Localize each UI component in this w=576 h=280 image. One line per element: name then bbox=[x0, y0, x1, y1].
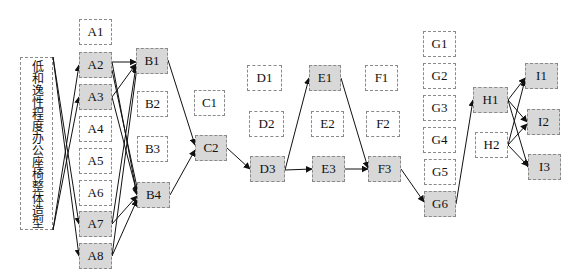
node-c1: C1 bbox=[194, 90, 225, 116]
diagram-canvas: 低和逸性程度办公座椅整体造型 A1A2A3A4A5A6A7A8B1B2B3B4C… bbox=[0, 0, 576, 280]
node-label: D1 bbox=[257, 70, 273, 86]
node-i1: I1 bbox=[525, 63, 558, 89]
node-e3: E3 bbox=[312, 156, 345, 182]
node-label: H2 bbox=[484, 137, 500, 153]
edge-arrow bbox=[53, 57, 79, 224]
node-label: A8 bbox=[88, 248, 104, 264]
node-a5: A5 bbox=[79, 148, 112, 174]
edge-arrow bbox=[285, 169, 312, 170]
edge-arrow bbox=[285, 78, 309, 170]
edge-arrow bbox=[53, 97, 79, 230]
node-label: G6 bbox=[432, 196, 448, 212]
node-label: A2 bbox=[88, 57, 104, 73]
node-label: F2 bbox=[376, 116, 390, 132]
node-label: A7 bbox=[88, 216, 104, 232]
node-e1: E1 bbox=[309, 65, 341, 91]
node-a8: A8 bbox=[79, 243, 112, 269]
node-label: F1 bbox=[375, 70, 389, 86]
node-e2: E2 bbox=[311, 111, 344, 137]
node-label: A4 bbox=[88, 121, 104, 137]
node-g3: G3 bbox=[423, 95, 456, 121]
node-label: D3 bbox=[260, 161, 276, 177]
node-label: G3 bbox=[432, 100, 448, 116]
node-label: G5 bbox=[432, 164, 448, 180]
node-h2: H2 bbox=[475, 132, 508, 158]
node-label: I2 bbox=[538, 114, 549, 130]
node-h1: H1 bbox=[473, 87, 508, 113]
node-d2: D2 bbox=[249, 111, 284, 137]
node-f2: F2 bbox=[366, 111, 400, 137]
edge-arrow bbox=[170, 150, 195, 195]
node-a3: A3 bbox=[79, 84, 112, 110]
node-label: B4 bbox=[146, 187, 161, 203]
node-a2: A2 bbox=[79, 52, 112, 78]
edge-arrow bbox=[401, 169, 424, 202]
edge-arrow bbox=[227, 148, 250, 169]
node-label: E3 bbox=[321, 161, 335, 177]
node-d3: D3 bbox=[250, 156, 285, 182]
node-a7: A7 bbox=[79, 211, 112, 237]
node-f3: F3 bbox=[368, 156, 401, 182]
node-b4: B4 bbox=[137, 182, 170, 208]
node-label: C1 bbox=[202, 95, 217, 111]
node-label: B2 bbox=[145, 96, 160, 112]
node-label: E2 bbox=[320, 116, 334, 132]
node-b1: B1 bbox=[136, 48, 168, 74]
node-label: G4 bbox=[432, 132, 448, 148]
node-a1: A1 bbox=[79, 19, 112, 45]
node-g4: G4 bbox=[423, 127, 456, 153]
node-label: G2 bbox=[432, 68, 448, 84]
node-g1: G1 bbox=[423, 31, 456, 57]
node-f1: F1 bbox=[365, 65, 398, 91]
node-label: B1 bbox=[144, 53, 159, 69]
node-c2: C2 bbox=[195, 135, 227, 161]
node-i2: I2 bbox=[527, 109, 560, 135]
edge-arrow bbox=[112, 66, 136, 224]
node-g6: G6 bbox=[424, 191, 456, 217]
node-label: I3 bbox=[539, 159, 550, 175]
node-d1: D1 bbox=[247, 65, 282, 91]
node-a6: A6 bbox=[79, 180, 112, 206]
node-label: G1 bbox=[432, 36, 448, 52]
node-b3: B3 bbox=[137, 136, 168, 162]
node-label: C2 bbox=[203, 140, 218, 156]
node-b2: B2 bbox=[137, 91, 168, 117]
node-label: D2 bbox=[259, 116, 275, 132]
node-label: A5 bbox=[88, 153, 104, 169]
edge-arrow bbox=[168, 60, 195, 145]
node-label: A3 bbox=[88, 89, 104, 105]
node-label: F3 bbox=[378, 161, 392, 177]
node-label: A1 bbox=[88, 24, 104, 40]
edge-arrow bbox=[341, 78, 368, 168]
node-label: I1 bbox=[536, 68, 547, 84]
edge-arrow bbox=[456, 100, 473, 204]
node-a4: A4 bbox=[79, 116, 112, 142]
node-i3: I3 bbox=[528, 154, 561, 180]
node-label: H1 bbox=[483, 92, 499, 108]
node-label: E1 bbox=[318, 70, 332, 86]
node-g2: G2 bbox=[423, 63, 456, 89]
node-label: B3 bbox=[145, 141, 160, 157]
node-label: A6 bbox=[88, 185, 104, 201]
node-g5: G5 bbox=[424, 159, 456, 185]
